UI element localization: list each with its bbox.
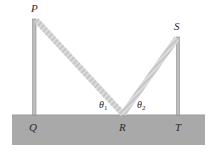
angle-theta2: θ2 [137,99,146,112]
post-st [177,37,180,115]
diagram-canvas: P S Q R T θ1 θ2 [0,0,210,152]
post-pq [33,19,37,115]
theta2-subscript: 2 [142,104,146,112]
label-s: S [174,20,180,32]
label-p: P [30,2,38,14]
angle-theta1: θ1 [99,99,108,112]
label-r: R [118,121,126,133]
label-t: T [175,121,182,133]
label-q: Q [29,121,37,133]
theta1-subscript: 1 [104,104,108,112]
rope-rs [123,38,177,114]
rope-pr [36,20,123,114]
